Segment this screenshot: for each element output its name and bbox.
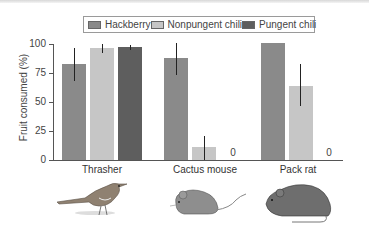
y-tick-label-50: 50 [22, 96, 46, 107]
y-tick-label-0: 0 [22, 154, 46, 165]
legend-label: Pungent chili [259, 19, 316, 30]
y-axis [53, 44, 54, 160]
legend-label: Nonpungent chili [168, 19, 243, 30]
error-bar [130, 45, 131, 50]
bar-thrasher-pungent [118, 47, 142, 160]
legend-swatch-hackberry [88, 21, 101, 29]
legend-swatch-pungent [242, 21, 255, 29]
legend-item-pungent: Pungent chili [242, 19, 316, 30]
x-axis [53, 160, 343, 161]
legend-label: Hackberry [105, 19, 151, 30]
error-bar [204, 136, 205, 160]
y-tick-label-75: 75 [22, 67, 46, 78]
legend-item-hackberry: Hackberry [88, 19, 151, 30]
chart-legend: Hackberry Nonpungent chili Pungent chili [83, 16, 315, 33]
bar-thrasher-nonpungent [90, 48, 114, 160]
category-label-cactus-mouse: Cactus mouse [160, 164, 250, 175]
bar-pack-rat-hackberry [261, 43, 285, 160]
bar-pack-rat-nonpungent [289, 86, 313, 160]
legend-swatch-nonpungent [151, 21, 164, 29]
error-bar [176, 43, 177, 75]
zero-label-cactus-mouse: 0 [227, 147, 239, 158]
y-tick-label-25: 25 [22, 125, 46, 136]
zero-label-pack-rat: 0 [323, 147, 335, 158]
y-tick-label-100: 100 [22, 38, 46, 49]
legend-item-nonpungent: Nonpungent chili [151, 19, 243, 30]
error-bar [102, 44, 103, 53]
error-bar [74, 48, 75, 81]
rat-illustration [262, 180, 337, 228]
error-bar [300, 64, 301, 106]
mouse-illustration [168, 186, 253, 222]
top-border [0, 0, 369, 3]
bird-illustration [55, 178, 135, 223]
category-label-pack-rat: Pack rat [253, 164, 343, 175]
category-label-thrasher: Thrasher [57, 164, 147, 175]
